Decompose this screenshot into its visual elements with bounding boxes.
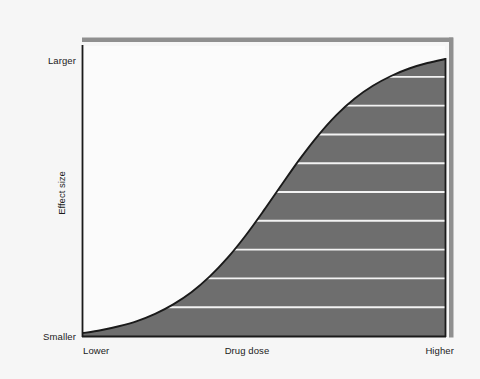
y-axis-bottom-label: Smaller — [43, 332, 76, 342]
x-axis-title: Drug dose — [14, 346, 480, 356]
chart-figure: Larger Smaller Effect size Lower Drug do… — [0, 0, 480, 379]
frame-shadow-right — [449, 38, 454, 338]
frame-shadow-top — [82, 38, 453, 43]
y-axis-top-label: Larger — [48, 56, 76, 66]
y-axis-title: Effect size — [57, 171, 67, 215]
x-axis-right-label: Higher — [425, 346, 454, 356]
